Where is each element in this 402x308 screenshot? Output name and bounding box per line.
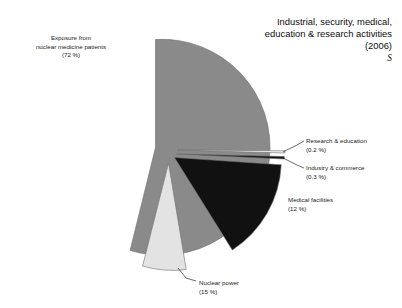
chart-title-line-1: Industrial, security, medical, <box>277 16 392 27</box>
pie-chart-figure: Industrial, security, medical, education… <box>0 0 402 308</box>
slice-label-medical-percent: (12 %) <box>288 205 306 212</box>
pie-chart-canvas: Industrial, security, medical, education… <box>0 0 402 308</box>
slice-label-industry-percent: (0.3 %) <box>306 173 326 180</box>
slice-label-research-percent: (0.2 %) <box>306 146 326 153</box>
slice-label-exposure-line-1: Exposure from <box>51 34 91 41</box>
slice-label-industry-line-1: Industry & commerce <box>306 164 365 171</box>
slice-label-exposure-percent: (72 %) <box>62 51 80 58</box>
chart-title-line-3-year: (2006) <box>365 40 392 51</box>
slice-label-nuclear-line-1: Nuclear power <box>199 279 239 286</box>
slice-label-research-line-1: Research & education <box>306 137 367 144</box>
slice-label-exposure-line-2: nuclear medicine patients <box>36 43 106 50</box>
slice-label-nuclear-percent: (15 %) <box>199 288 217 295</box>
chart-title-line-2: education & research activities <box>265 28 392 39</box>
slice-label-medical-line-1: Medical facilities <box>288 196 333 203</box>
chart-title-symbol: S <box>387 53 392 63</box>
